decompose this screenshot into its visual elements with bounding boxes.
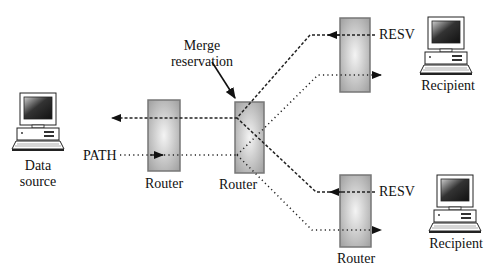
router-1-label: Router: [140, 176, 188, 192]
data-source-computer-icon: [12, 93, 64, 151]
recipient-bottom-computer-icon: [429, 175, 481, 233]
router-3: [340, 18, 370, 92]
source-label-line1: Data: [18, 158, 58, 174]
router-1: [148, 100, 180, 171]
router-2: [235, 102, 264, 173]
recipient-top-label: Recipient: [417, 78, 479, 94]
router-4: [340, 175, 371, 247]
rsvp-diagram: [0, 0, 494, 273]
resv-label-bottom: RESV: [379, 184, 415, 200]
recipient-bottom-label: Recipient: [425, 236, 487, 252]
merge-label-line2: reservation: [160, 54, 244, 70]
merge-label-line1: Merge: [172, 38, 232, 54]
recipient-top-computer-icon: [420, 17, 472, 75]
path-label: PATH: [83, 148, 117, 164]
router-2-label: Router: [214, 177, 262, 193]
resv-label-top: RESV: [379, 27, 415, 43]
router-4-label: Router: [332, 251, 380, 267]
source-label-line2: source: [14, 174, 62, 190]
